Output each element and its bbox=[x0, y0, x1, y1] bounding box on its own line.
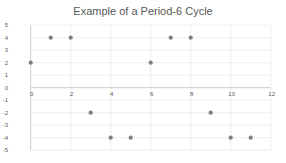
y-tick-label: -2 bbox=[3, 110, 9, 116]
data-point bbox=[69, 36, 73, 40]
x-tick-label: 4 bbox=[110, 91, 114, 97]
y-axis-tick-labels: 543210-1-2-3-4-5 bbox=[3, 22, 9, 153]
data-point bbox=[49, 36, 53, 40]
data-point bbox=[149, 61, 153, 65]
x-tick-label: 2 bbox=[70, 91, 74, 97]
x-tick-label: 6 bbox=[150, 91, 154, 97]
y-tick-label: 4 bbox=[5, 35, 9, 41]
y-tick-label: -5 bbox=[3, 147, 9, 153]
data-point bbox=[209, 111, 213, 115]
x-axis-tick-labels: 024681012 bbox=[30, 91, 276, 97]
data-point bbox=[169, 36, 173, 40]
y-tick-label: -3 bbox=[3, 122, 9, 128]
x-tick-label: 12 bbox=[268, 91, 275, 97]
data-point bbox=[189, 36, 193, 40]
y-tick-label: 2 bbox=[5, 60, 9, 66]
data-point bbox=[29, 61, 33, 65]
y-tick-label: 3 bbox=[5, 47, 9, 53]
y-tick-label: 5 bbox=[5, 22, 9, 28]
scatter-chart: 543210-1-2-3-4-5 024681012 bbox=[0, 0, 286, 163]
data-point bbox=[249, 136, 253, 140]
data-point bbox=[129, 136, 133, 140]
data-point bbox=[109, 136, 113, 140]
x-tick-label: 0 bbox=[30, 91, 34, 97]
y-tick-label: 0 bbox=[5, 85, 9, 91]
x-tick-label: 10 bbox=[228, 91, 235, 97]
y-tick-label: 1 bbox=[5, 72, 9, 78]
x-tick-label: 8 bbox=[190, 91, 194, 97]
y-tick-label: -1 bbox=[3, 97, 9, 103]
y-tick-label: -4 bbox=[3, 135, 9, 141]
data-point bbox=[229, 136, 233, 140]
data-point bbox=[89, 111, 93, 115]
